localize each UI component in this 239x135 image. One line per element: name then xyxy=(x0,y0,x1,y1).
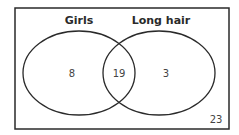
long-hair-label: Long hair xyxy=(132,14,191,27)
venn-diagram: Girls Long hair 8 19 3 23 xyxy=(0,0,239,135)
outside-value: 23 xyxy=(210,114,223,125)
girls-label: Girls xyxy=(65,14,94,27)
intersection-value: 19 xyxy=(113,68,126,79)
long-hair-only-value: 3 xyxy=(163,68,169,79)
girls-only-value: 8 xyxy=(69,68,75,79)
